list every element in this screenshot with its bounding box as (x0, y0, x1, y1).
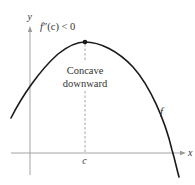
concavity-diagram: x y f c f″(c) < 0 Concave downward (0, 0, 195, 185)
condition-argument: (c) < 0 (47, 21, 75, 33)
y-axis: y (27, 11, 33, 175)
critical-point-label: c (82, 155, 87, 166)
y-axis-label: y (27, 11, 33, 22)
concavity-description-line2: downward (63, 78, 108, 89)
x-axis-arrow-icon (180, 151, 186, 155)
x-axis: x (11, 147, 193, 158)
function-curve (11, 42, 179, 177)
second-derivative-condition: f″(c) < 0 (40, 21, 75, 33)
y-axis-arrow-icon (28, 26, 32, 32)
curve-label: f (160, 105, 165, 117)
concavity-description-line1: Concave (67, 65, 104, 76)
critical-point-marker (83, 40, 88, 45)
x-axis-label: x (187, 147, 193, 158)
